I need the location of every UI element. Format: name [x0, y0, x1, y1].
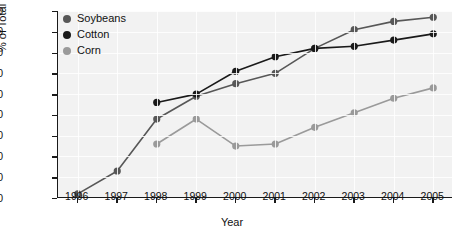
x-tick-mark	[156, 198, 157, 203]
gridline-vertical	[394, 11, 395, 197]
y-tick-mark	[52, 156, 57, 157]
legend-swatch-icon	[63, 15, 71, 23]
x-tick-mark	[274, 198, 275, 203]
gridline-vertical	[433, 11, 434, 197]
gridline-vertical	[157, 11, 158, 197]
y-tick-label: 20	[0, 151, 3, 162]
x-tick-mark	[116, 198, 117, 203]
x-tick-mark	[195, 198, 196, 203]
line-chart: 0102030405060708090 19961997199819992000…	[0, 0, 464, 237]
y-tick-label: 10	[0, 172, 3, 183]
y-tick-label: 60	[0, 68, 3, 79]
y-tick-label: 30	[0, 130, 3, 141]
x-tick-mark	[353, 198, 354, 203]
gridline-vertical	[354, 11, 355, 197]
legend-item-corn: Corn	[63, 43, 126, 58]
x-tick-mark	[432, 198, 433, 203]
legend-item-soybeans: Soybeans	[63, 11, 126, 26]
y-axis-label: % of Total U.S. Acreage	[0, 0, 8, 52]
y-tick-label: 50	[0, 89, 3, 100]
y-tick-mark	[52, 94, 57, 95]
legend-swatch-icon	[63, 47, 71, 55]
x-tick-mark	[235, 198, 236, 203]
legend-label: Soybeans	[77, 13, 126, 24]
gridline-vertical	[236, 11, 237, 197]
legend: SoybeansCottonCorn	[63, 11, 126, 59]
y-tick-mark	[52, 32, 57, 33]
legend-item-cotton: Cotton	[63, 27, 126, 42]
legend-label: Cotton	[77, 29, 109, 40]
gridline-vertical	[315, 11, 316, 197]
y-tick-mark	[52, 53, 57, 54]
y-tick-mark	[52, 11, 57, 12]
y-tick-mark	[52, 115, 57, 116]
legend-swatch-icon	[63, 31, 71, 39]
x-tick-mark	[77, 198, 78, 203]
y-tick-mark	[52, 136, 57, 137]
y-tick-label: 40	[0, 109, 3, 120]
x-tick-mark	[314, 198, 315, 203]
y-tick-label: 0	[0, 193, 3, 204]
gridline-vertical	[275, 11, 276, 197]
x-axis-label: Year	[0, 216, 464, 228]
x-tick-mark	[393, 198, 394, 203]
y-tick-mark	[52, 177, 57, 178]
y-tick-mark	[52, 73, 57, 74]
gridline-vertical	[196, 11, 197, 197]
legend-label: Corn	[77, 45, 101, 56]
